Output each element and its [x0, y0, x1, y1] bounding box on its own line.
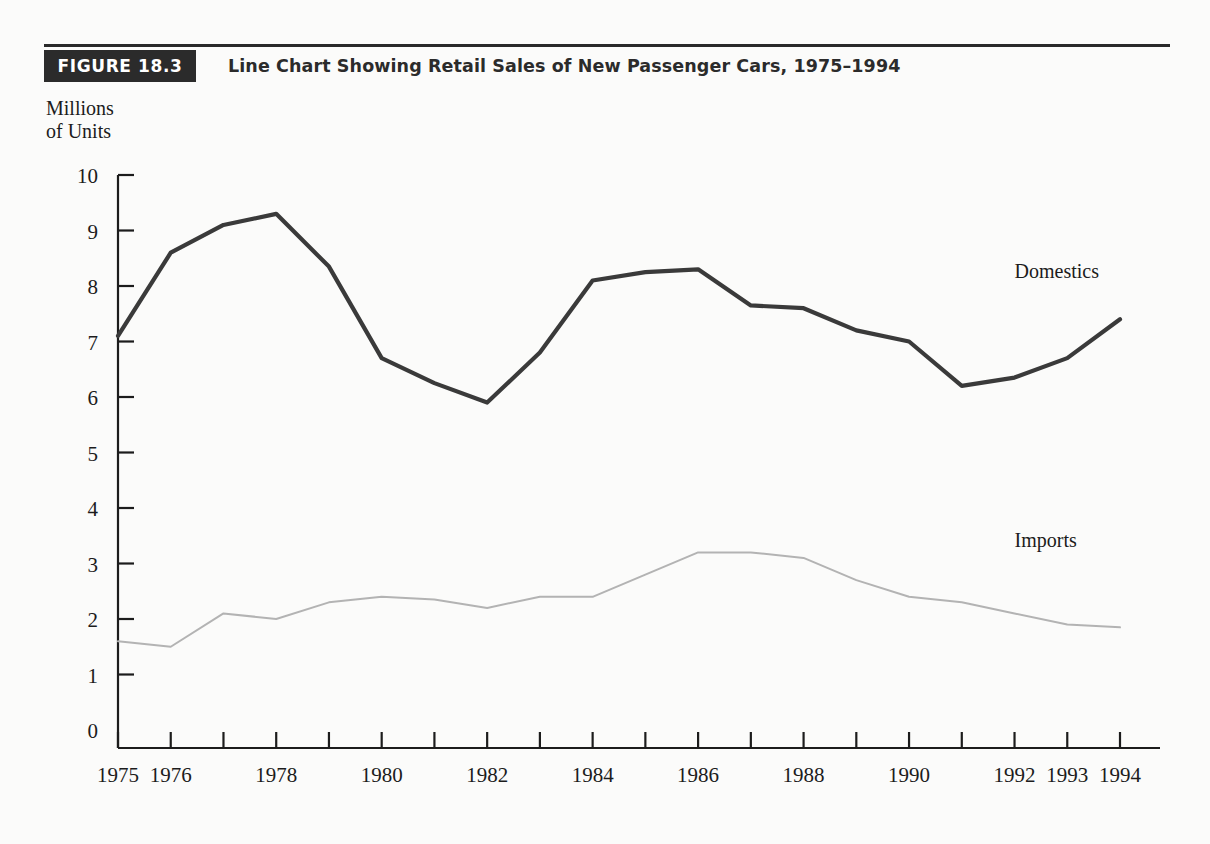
x-axis-tick-label: 1984: [572, 763, 615, 787]
y-axis-tick-label: 1: [88, 664, 99, 688]
series-line-domestics: [118, 214, 1120, 403]
x-axis-tick-label: 1982: [466, 763, 508, 787]
series-line-imports: [118, 552, 1120, 646]
y-axis-tick-label: 5: [88, 442, 99, 466]
y-axis-tick-label: 0: [88, 719, 99, 743]
x-axis-tick-label: 1993: [1046, 763, 1088, 787]
x-axis-tick-label: 1975: [97, 763, 139, 787]
x-axis-tick-label: 1988: [783, 763, 825, 787]
y-axis-tick-label: 10: [77, 164, 98, 188]
series-annotation: Imports: [1015, 529, 1077, 552]
y-axis-tick-label: 9: [88, 220, 99, 244]
y-axis-tick-label: 6: [88, 386, 99, 410]
y-axis-tick-label: 4: [88, 497, 99, 521]
chart-axes: [118, 175, 1160, 748]
x-axis-tick-label: 1992: [994, 763, 1036, 787]
y-axis-tick-label: 2: [88, 608, 99, 632]
y-axis-tick-label: 8: [88, 275, 99, 299]
y-axis-tick-label: 7: [88, 331, 99, 355]
chart-labels: 0123456789101975197619781980198219841986…: [77, 164, 1142, 787]
figure: FIGURE 18.3 Line Chart Showing Retail Sa…: [0, 0, 1210, 844]
x-axis-tick-label: 1986: [677, 763, 719, 787]
line-chart: 0123456789101975197619781980198219841986…: [0, 0, 1210, 844]
x-axis-tick-label: 1994: [1099, 763, 1142, 787]
y-axis-tick-label: 3: [88, 553, 99, 577]
chart-series: [118, 214, 1120, 647]
x-axis-tick-label: 1978: [255, 763, 297, 787]
series-annotation: Domestics: [1015, 260, 1100, 282]
x-axis-tick-label: 1990: [888, 763, 930, 787]
x-axis-tick-label: 1976: [150, 763, 192, 787]
x-axis-tick-label: 1980: [361, 763, 403, 787]
